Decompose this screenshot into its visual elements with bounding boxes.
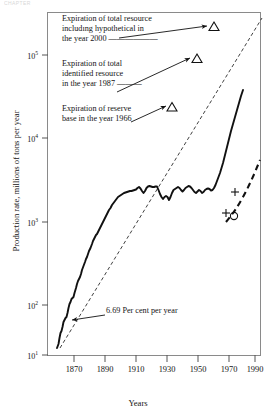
x-tick-label-1890: 1890 (90, 365, 120, 374)
x-tick-label-1930: 1930 (152, 365, 182, 374)
x-tick-label-1990: 1990 (240, 365, 270, 374)
annotation-expiration-identified-resource: Expiration of total identified resource … (62, 59, 142, 90)
x-axis-ticks (74, 355, 255, 362)
x-tick-label-1910: 1910 (121, 365, 151, 374)
figure-container: CHAPTER (0, 0, 276, 419)
y-tick-label-1e1: 101 (16, 350, 38, 361)
annotation-expiration-reserve-base: Expiration of reserve base in the year 1… (62, 104, 132, 124)
x-tick-label-1870: 1870 (59, 365, 89, 374)
y-tick-label-1e2: 102 (16, 300, 38, 311)
annotation-expiration-total-resource: Expiration of total resource includıng h… (62, 14, 158, 45)
x-tick-label-1950: 1950 (183, 365, 213, 374)
annotation-growth-rate: 6.69 Per cent per year (106, 306, 178, 316)
y-axis-label: Production rate, millions of tons per ye… (11, 86, 21, 276)
y-tick-label-1e5: 105 (16, 50, 38, 61)
x-axis-label: Years (78, 398, 198, 408)
